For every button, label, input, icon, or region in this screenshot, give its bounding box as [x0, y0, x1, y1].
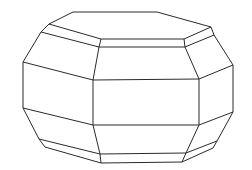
polyhedron-edge — [184, 27, 211, 39]
polyhedron-edge — [93, 47, 99, 80]
polyhedron-edge — [101, 162, 182, 163]
polyhedron-edge — [41, 24, 49, 32]
polyhedron-edge — [199, 112, 233, 125]
polyhedron-edge — [157, 12, 211, 27]
polyhedron-edge — [100, 154, 101, 163]
polyhedron-edge — [41, 32, 99, 47]
polyhedron-edge — [185, 47, 199, 79]
polyhedron-edge — [217, 112, 233, 141]
polyhedron-edge — [99, 39, 101, 47]
polyhedron-edge — [184, 39, 185, 47]
polyhedron-edge — [23, 62, 93, 80]
polyhedron-edge — [93, 125, 100, 154]
crystal-polyhedron-diagram — [0, 0, 252, 170]
polyhedron-edge — [45, 147, 101, 163]
polyhedron-edge — [49, 12, 73, 24]
polyhedron-edge — [182, 148, 213, 162]
polyhedron-edge — [23, 108, 39, 139]
polyhedron-edge — [49, 24, 101, 39]
polyhedron-edge — [211, 27, 214, 35]
polyhedron-edge — [199, 65, 233, 79]
polyhedron-edge — [39, 139, 100, 154]
polyhedron-edge — [93, 79, 199, 80]
polyhedron-edge — [23, 108, 93, 125]
polyhedron-edge — [100, 153, 186, 154]
polyhedron-edge — [23, 32, 41, 62]
polyhedron-edge — [214, 35, 233, 65]
